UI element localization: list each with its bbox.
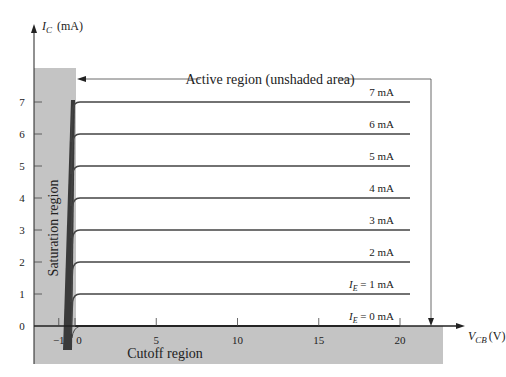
curve-label-3: 3 mA <box>369 214 394 226</box>
active-bracket-arrow <box>428 318 434 326</box>
y-tick-label: 4 <box>19 192 25 204</box>
curve-label-0: IE = 0 mA <box>348 310 394 325</box>
y-axis-arrow <box>31 24 37 33</box>
characteristic-curves <box>71 102 410 338</box>
curve-label-4: 4 mA <box>369 182 394 194</box>
y-tick-label: 1 <box>19 288 25 300</box>
active-region-arrow <box>77 76 86 82</box>
curve-label-6: 6 mA <box>369 118 394 130</box>
y-tick-label: 2 <box>19 256 25 268</box>
cutoff-region-label: Cutoff region <box>127 346 203 361</box>
x-tick-label: −1 <box>53 334 65 346</box>
curve-labels: IE = 0 mAIE = 1 mA2 mA3 mA4 mA5 mA6 mA7 … <box>348 86 394 325</box>
x-tick-label: 20 <box>395 334 407 346</box>
curve-ie-3 <box>71 230 410 270</box>
active-region-label: Active region (unshaded area) <box>185 72 354 88</box>
common-base-characteristics-chart: 01234567 −105101520 IC(mA) VCB(V) Active… <box>0 0 506 377</box>
curve-ie-7 <box>71 102 410 142</box>
curve-label-7: 7 mA <box>369 86 394 98</box>
x-tick-label: 15 <box>313 334 325 346</box>
x-tick-label: 10 <box>232 334 244 346</box>
y-tick-label: 6 <box>19 128 25 140</box>
curve-ie-4 <box>71 198 410 238</box>
saturation-region-label: Saturation region <box>46 180 61 277</box>
x-axis-arrow <box>456 323 465 329</box>
y-tick-label: 0 <box>19 320 25 332</box>
curve-label-2: 2 mA <box>369 246 394 258</box>
curve-ie-6 <box>71 134 410 174</box>
y-axis-title: IC(mA) <box>41 19 83 35</box>
curve-ie-5 <box>71 166 410 206</box>
curve-label-5: 5 mA <box>369 150 394 162</box>
y-tick-label: 3 <box>19 224 25 236</box>
y-tick-label: 5 <box>19 160 25 172</box>
x-tick-label: 0 <box>76 334 82 346</box>
curve-label-1: IE = 1 mA <box>348 278 394 293</box>
x-axis-title: VCB(V) <box>468 329 506 345</box>
y-tick-label: 7 <box>19 96 25 108</box>
x-tick-label: 5 <box>154 334 160 346</box>
